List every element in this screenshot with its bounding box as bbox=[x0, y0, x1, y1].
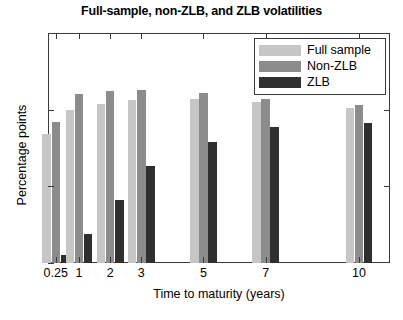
x-axis-tick-label: 2 bbox=[107, 266, 114, 280]
x-axis-tick-mark bbox=[79, 257, 80, 263]
x-axis-tick-mark bbox=[203, 257, 204, 263]
legend-label: Non-ZLB bbox=[307, 60, 357, 73]
bar bbox=[115, 200, 124, 263]
bar bbox=[270, 127, 279, 263]
bar bbox=[52, 122, 61, 263]
bar bbox=[75, 94, 84, 263]
x-axis-tick-mark bbox=[110, 33, 111, 39]
bar bbox=[84, 234, 93, 263]
legend-swatch-zlb bbox=[259, 77, 301, 88]
bar bbox=[106, 91, 115, 263]
x-axis-tick-mark bbox=[203, 33, 204, 39]
legend-label: ZLB bbox=[307, 76, 330, 89]
x-axis-tick-mark bbox=[141, 257, 142, 263]
y-axis-tick-mark bbox=[48, 110, 54, 111]
x-axis-tick-mark bbox=[266, 257, 267, 263]
y-axis-tick-mark bbox=[48, 33, 54, 34]
y-axis-label: Percentage points bbox=[15, 65, 29, 245]
legend-swatch-non-zlb bbox=[259, 61, 301, 72]
legend-item: Full sample bbox=[259, 43, 381, 58]
bar bbox=[146, 166, 155, 263]
bar bbox=[97, 104, 106, 263]
legend-label: Full sample bbox=[307, 44, 371, 57]
x-axis-tick-mark bbox=[79, 33, 80, 39]
x-axis-tick-label: 10 bbox=[352, 266, 366, 280]
x-axis-tick-mark bbox=[56, 257, 57, 263]
x-axis-label: Time to maturity (years) bbox=[48, 287, 390, 301]
chart-legend: Full sample Non-ZLB ZLB bbox=[254, 38, 386, 95]
legend-item: ZLB bbox=[259, 75, 381, 90]
bar bbox=[128, 100, 137, 263]
x-axis-tick-label: 1 bbox=[76, 266, 83, 280]
x-axis-tick-label: 0.25 bbox=[44, 266, 68, 280]
bar bbox=[355, 105, 364, 263]
bar bbox=[66, 110, 75, 263]
bar-chart: Full-sample, non-ZLB, and ZLB volatiliti… bbox=[0, 0, 403, 320]
bar bbox=[190, 99, 199, 263]
y-axis-tick-mark bbox=[48, 263, 54, 264]
bar bbox=[42, 134, 51, 263]
x-axis-tick-mark bbox=[359, 257, 360, 263]
x-axis-tick-label: 7 bbox=[262, 266, 269, 280]
y-axis-tick-mark bbox=[384, 186, 390, 187]
legend-item: Non-ZLB bbox=[259, 59, 381, 74]
bar bbox=[252, 102, 261, 263]
x-axis-tick-mark bbox=[141, 33, 142, 39]
y-axis-tick-mark bbox=[48, 186, 54, 187]
bar bbox=[364, 123, 373, 263]
bar bbox=[208, 142, 217, 263]
bar bbox=[261, 99, 270, 263]
bar bbox=[346, 108, 355, 263]
bar bbox=[137, 90, 146, 263]
legend-swatch-full-sample bbox=[259, 45, 301, 56]
bar bbox=[199, 93, 208, 263]
x-axis-tick-mark bbox=[56, 33, 57, 39]
x-axis-tick-mark bbox=[110, 257, 111, 263]
chart-title: Full-sample, non-ZLB, and ZLB volatiliti… bbox=[0, 4, 403, 18]
y-axis-tick-mark bbox=[384, 110, 390, 111]
x-axis-tick-label: 5 bbox=[200, 266, 207, 280]
x-axis-tick-label: 3 bbox=[138, 266, 145, 280]
